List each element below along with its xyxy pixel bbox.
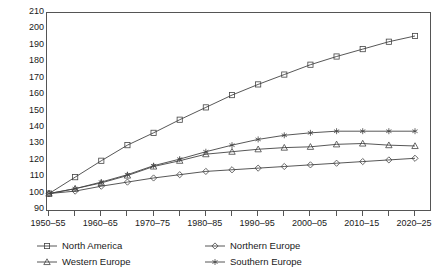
y-axis-tick-label: 200 bbox=[0, 23, 44, 32]
legend-label: Southern Europe bbox=[226, 256, 302, 268]
chart-legend: North AmericaNorthern EuropeWestern Euro… bbox=[0, 236, 441, 278]
legend-item[interactable]: Northern Europe bbox=[204, 238, 300, 253]
y-axis-tick-label: 110 bbox=[0, 171, 44, 180]
x-axis-tick-mark bbox=[336, 211, 337, 216]
x-axis-tick-mark bbox=[231, 211, 232, 216]
y-axis-tick-label: 210 bbox=[0, 7, 44, 16]
y-axis-tick-label: 180 bbox=[0, 56, 44, 65]
x-axis-tick-mark bbox=[205, 211, 206, 216]
star-marker-icon bbox=[204, 256, 226, 268]
legend-item[interactable]: Western Europe bbox=[36, 254, 130, 269]
legend-item[interactable]: North America bbox=[36, 238, 122, 253]
x-axis-tick-mark bbox=[179, 211, 180, 216]
x-axis-tick-mark bbox=[48, 211, 49, 216]
y-axis-tick-label: 90 bbox=[0, 204, 44, 213]
legend-label: North America bbox=[58, 240, 122, 252]
x-axis-tick-mark bbox=[257, 211, 258, 216]
diamond-marker-icon bbox=[204, 240, 226, 252]
y-axis-tick-label: 130 bbox=[0, 138, 44, 147]
series-northern-europe bbox=[46, 155, 418, 196]
y-axis-tick-label: 150 bbox=[0, 106, 44, 115]
x-axis-tick-mark bbox=[153, 211, 154, 216]
y-axis-tick-label: 170 bbox=[0, 73, 44, 82]
x-axis-tick-mark bbox=[74, 211, 75, 216]
x-axis-tick-label: 2010–15 bbox=[332, 218, 392, 228]
plot-frame bbox=[46, 12, 431, 211]
y-axis-tick-label: 160 bbox=[0, 89, 44, 98]
x-axis-tick-label: 1970–75 bbox=[123, 218, 183, 228]
series-north-america bbox=[46, 33, 417, 196]
x-axis-tick-mark bbox=[283, 211, 284, 216]
series-layer bbox=[47, 13, 430, 210]
x-axis-tick-label: 1960–65 bbox=[70, 218, 130, 228]
x-axis-tick-label: 2000–05 bbox=[279, 218, 339, 228]
legend-label: Western Europe bbox=[58, 256, 130, 268]
x-axis-tick-label: 2020–25 bbox=[384, 218, 441, 228]
x-axis-tick-mark bbox=[309, 211, 310, 216]
x-axis-tick-mark bbox=[414, 211, 415, 216]
y-axis-tick-label: 190 bbox=[0, 40, 44, 49]
y-axis-tick-label: 140 bbox=[0, 122, 44, 131]
x-axis-tick-mark bbox=[388, 211, 389, 216]
square-marker-icon bbox=[36, 240, 58, 252]
legend-item[interactable]: Southern Europe bbox=[204, 254, 302, 269]
y-axis-tick-label: 100 bbox=[0, 188, 44, 197]
x-axis-tick-label: 1980–85 bbox=[175, 218, 235, 228]
plot-container: 90100110120130140150160170180190200210 1… bbox=[0, 0, 441, 232]
series-western-europe bbox=[46, 140, 418, 196]
chart-root: 90100110120130140150160170180190200210 1… bbox=[0, 0, 441, 278]
x-axis-tick-mark bbox=[362, 211, 363, 216]
legend-label: Northern Europe bbox=[226, 240, 300, 252]
x-axis-tick-mark bbox=[100, 211, 101, 216]
x-axis-tick-label: 1990–95 bbox=[227, 218, 287, 228]
y-axis-tick-label: 120 bbox=[0, 155, 44, 164]
x-axis-tick-mark bbox=[126, 211, 127, 216]
x-axis-tick-label: 1950–55 bbox=[18, 218, 78, 228]
triangle-marker-icon bbox=[36, 256, 58, 268]
